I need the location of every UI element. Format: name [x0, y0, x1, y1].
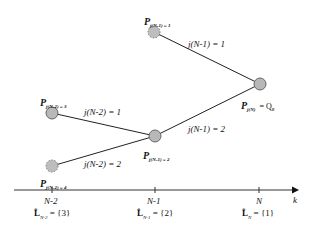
node-left-lower [46, 160, 58, 172]
diagram-canvas: Pj(N-1) = 1 Pj(N) = Q0 Pj(N-2) = 3 Pj(N-… [0, 0, 312, 234]
edge-label-middle-right: j(N-1) = 2 [188, 125, 225, 134]
set-label-n-1: L̂N-1 = {2} [137, 208, 173, 220]
tick-label-n-2: N-2 [44, 197, 58, 206]
set-label-n: L̂N = {1} [242, 208, 274, 220]
axis-arrow-icon [292, 187, 299, 194]
edge-label-top-right: j(N-1) = 1 [188, 40, 225, 49]
node-label-middle: Pj(N-1) = 2 [143, 146, 169, 162]
edge-label-leftupper-middle: j(N-2) = 1 [84, 108, 121, 117]
node-right [254, 78, 266, 90]
node-label-right: Pj(N) = Q0 [241, 96, 274, 112]
node-middle [149, 130, 161, 142]
edge-label-leftlower-middle: j(N-2) = 2 [84, 160, 121, 169]
node-label-left-upper: Pj(N-2) = 3 [40, 93, 66, 109]
node-label-top: Pj(N-1) = 1 [144, 12, 170, 28]
set-label-n-2: L̂N-2 = {3} [34, 208, 70, 220]
tick-label-n: N [256, 197, 262, 206]
tick-label-n-1: N-1 [147, 197, 161, 206]
axis-label-k: k [293, 196, 297, 205]
node-label-left-lower: Pj(N-2) = 4 [40, 174, 66, 190]
